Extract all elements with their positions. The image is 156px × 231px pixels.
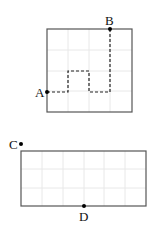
label-a: A	[35, 85, 45, 100]
point-a	[45, 90, 49, 94]
label-d: D	[79, 209, 88, 224]
point-c	[19, 142, 23, 146]
dashed-path-a-to-b	[47, 29, 110, 92]
label-c: C	[9, 137, 18, 152]
label-b: B	[105, 13, 114, 28]
point-d	[82, 204, 86, 208]
diagram-canvas: A B C D	[0, 0, 156, 231]
top-square-grid	[47, 29, 132, 112]
bottom-rect-grid	[21, 151, 146, 206]
